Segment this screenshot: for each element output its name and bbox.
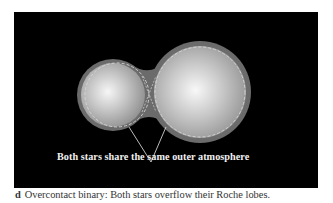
large-star [154, 46, 246, 138]
diagram-panel: Both stars share the same outer atmosphe… [14, 12, 318, 188]
figure-caption: dOvercontact binary: Both stars overflow… [15, 189, 270, 200]
caption-text: Overcontact binary: Both stars overflow … [25, 189, 270, 200]
annotation-label: Both stars share the same outer atmosphe… [57, 151, 257, 162]
caption-tag: d [15, 189, 21, 200]
